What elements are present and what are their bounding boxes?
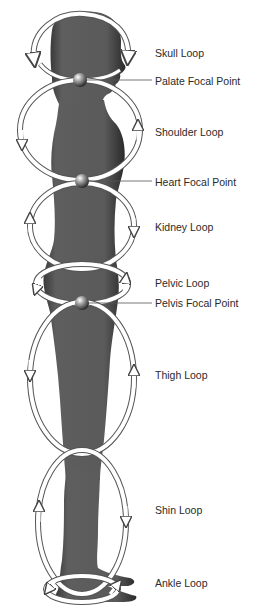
pelvis-focal-point-label: Pelvis Focal Point <box>155 297 238 309</box>
heart-focal-sphere <box>75 174 89 188</box>
kidney-loop-label: Kidney Loop <box>155 221 213 233</box>
shin-loop-label: Shin Loop <box>155 504 202 516</box>
palate-focal-point-label: Palate Focal Point <box>155 75 240 87</box>
heart-focal-point-label: Heart Focal Point <box>155 176 236 188</box>
shoulder-loop-label: Shoulder Loop <box>155 126 223 138</box>
pelvis-focal-sphere <box>75 296 89 310</box>
thigh-loop-label: Thigh Loop <box>155 369 208 381</box>
pelvic-loop-label: Pelvic Loop <box>155 277 209 289</box>
skull-loop-label: Skull Loop <box>155 47 204 59</box>
palate-focal-sphere <box>73 73 87 87</box>
ankle-loop-label: Ankle Loop <box>155 577 208 589</box>
body-silhouette <box>43 12 136 602</box>
